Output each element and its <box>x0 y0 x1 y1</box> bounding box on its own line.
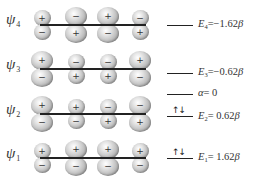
psi1-label: ψ1 <box>6 146 20 163</box>
energy-level-e3 <box>167 73 193 74</box>
minus-sign: − <box>72 58 80 67</box>
energy-value: = 1.62 <box>208 151 235 162</box>
minus-sign: − <box>72 117 80 126</box>
energy-label-alpha: α= 0 <box>198 87 217 98</box>
minus-sign: − <box>38 73 46 82</box>
p-orbital-lobe-bottom: + <box>100 68 117 84</box>
beta-symbol: β <box>235 110 240 121</box>
p-orbital-lobe-bottom: − <box>97 24 119 43</box>
plus-sign: + <box>72 29 80 38</box>
energy-value: = 0.62 <box>208 110 235 121</box>
energy-value: =−0.62 <box>208 66 238 77</box>
orbital-axis-line <box>40 24 146 26</box>
plus-sign: + <box>72 103 80 112</box>
plus-sign: + <box>104 145 112 154</box>
psi-subscript: 3 <box>16 65 20 74</box>
psi2-label: ψ2 <box>6 102 20 119</box>
plus-sign: + <box>38 101 46 110</box>
p-orbital-lobe-bottom: − <box>97 157 119 176</box>
p-orbital-lobe-bottom: − <box>68 113 85 129</box>
energy-value: = 0 <box>204 87 218 98</box>
minus-sign: − <box>38 161 46 170</box>
orbital-axis-line <box>40 157 146 159</box>
minus-sign: − <box>136 161 144 170</box>
electron-pair-icon: ↑↓ <box>172 148 185 157</box>
energy-level-alpha <box>167 94 193 95</box>
minus-sign: − <box>104 103 112 112</box>
energy-level-e4 <box>167 25 193 26</box>
p-orbital-lobe-bottom: − <box>65 157 87 176</box>
energy-label-e2: E2= 0.62β <box>198 110 240 122</box>
energy-label-e4: E4=−1.62β <box>198 18 243 30</box>
p-orbital-lobe-bottom: − <box>132 157 149 173</box>
psi-symbol: ψ <box>6 101 15 117</box>
psi3-label: ψ3 <box>6 57 20 74</box>
p-orbital-lobe-bottom: + <box>65 24 87 43</box>
p-orbital-lobe-bottom: + <box>68 68 85 84</box>
psi-subscript: 4 <box>16 20 20 29</box>
p-orbital-lobe-bottom: − <box>31 68 53 87</box>
p-orbital-lobe-bottom: − <box>34 157 51 173</box>
p-orbital-lobe-bottom: + <box>129 113 151 132</box>
psi-symbol: ψ <box>6 145 15 161</box>
beta-symbol: β <box>238 66 243 77</box>
minus-sign: − <box>136 73 144 82</box>
psi-symbol: ψ <box>6 11 15 27</box>
orbital-axis-line <box>40 113 146 115</box>
minus-sign: − <box>136 14 144 23</box>
minus-sign: − <box>104 58 112 67</box>
beta-symbol: β <box>235 151 240 162</box>
plus-sign: + <box>136 56 144 65</box>
energy-level-e2 <box>167 116 193 117</box>
plus-sign: + <box>38 147 46 156</box>
p-orbital-lobe-bottom: − <box>34 24 51 40</box>
plus-sign: + <box>38 14 46 23</box>
plus-sign: + <box>136 118 144 127</box>
minus-sign: − <box>104 29 112 38</box>
p-orbital-lobe-bottom: − <box>31 113 53 132</box>
minus-sign: − <box>104 162 112 171</box>
energy-level-e1 <box>167 158 193 159</box>
plus-sign: + <box>104 117 112 126</box>
psi-subscript: 2 <box>16 110 20 119</box>
plus-sign: + <box>72 145 80 154</box>
plus-sign: + <box>38 56 46 65</box>
psi-symbol: ψ <box>6 56 15 72</box>
energy-label-e1: E1= 1.62β <box>198 151 240 163</box>
minus-sign: − <box>38 28 46 37</box>
psi4-label: ψ4 <box>6 12 20 29</box>
beta-symbol: β <box>238 18 243 29</box>
p-orbital-lobe-bottom: − <box>129 68 151 87</box>
p-orbital-lobe-bottom: + <box>100 113 117 129</box>
minus-sign: − <box>72 162 80 171</box>
plus-sign: + <box>104 72 112 81</box>
plus-sign: + <box>136 28 144 37</box>
orbital-axis-line <box>40 68 146 70</box>
p-orbital-lobe-bottom: + <box>132 24 149 40</box>
minus-sign: − <box>72 12 80 21</box>
psi-subscript: 1 <box>16 154 20 163</box>
minus-sign: − <box>136 101 144 110</box>
energy-label-e3: E3=−0.62β <box>198 66 243 78</box>
plus-sign: + <box>104 12 112 21</box>
electron-pair-icon: ↑↓ <box>172 106 185 115</box>
energy-value: =−1.62 <box>208 18 238 29</box>
plus-sign: + <box>72 72 80 81</box>
plus-sign: + <box>136 147 144 156</box>
minus-sign: − <box>38 118 46 127</box>
